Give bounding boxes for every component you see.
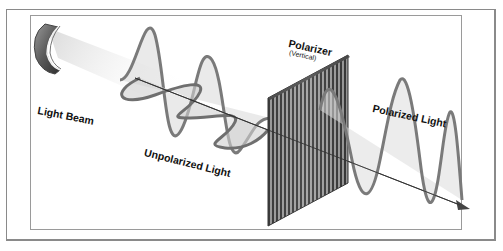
polarizer-grid xyxy=(268,55,350,226)
arrowhead-icon xyxy=(456,200,470,210)
